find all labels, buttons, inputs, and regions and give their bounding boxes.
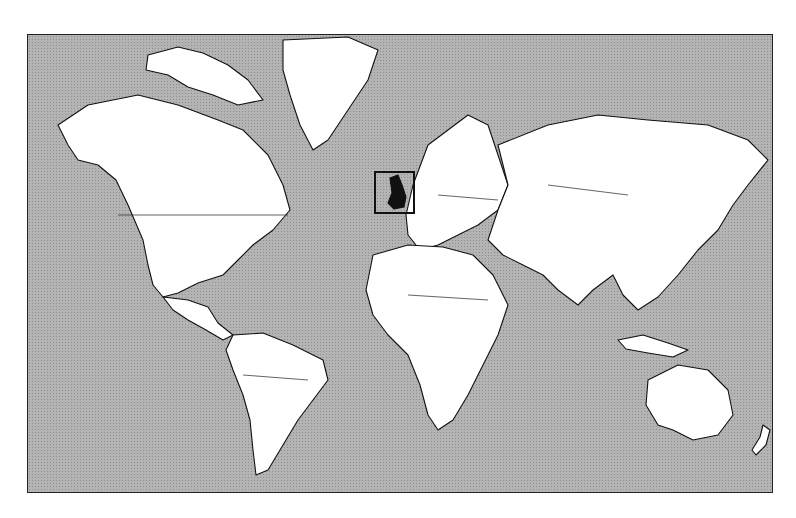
central-america [163,297,233,340]
asia [488,115,768,310]
new-zealand [752,425,770,455]
world-map [27,34,773,493]
greenland [283,37,378,150]
uk-highlight-box [374,171,415,214]
south-america [226,333,328,475]
africa [366,245,508,430]
continents [28,35,773,493]
australia [646,365,733,440]
indonesia [618,335,688,357]
north-america [58,95,290,297]
arctic-islands [146,47,263,105]
